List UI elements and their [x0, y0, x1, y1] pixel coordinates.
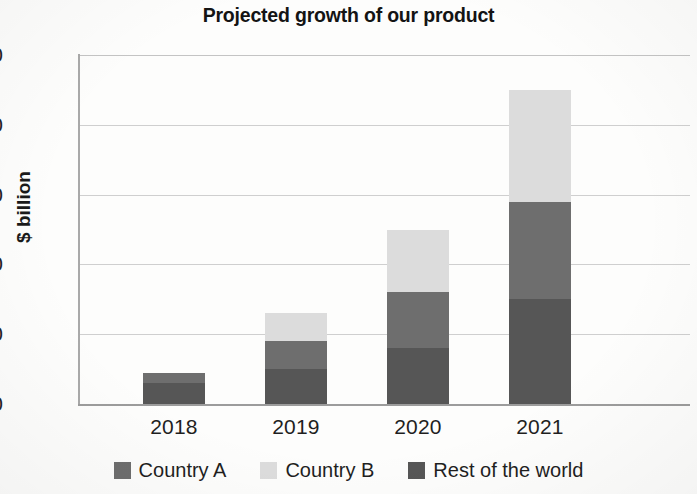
chart-title: Projected growth of our product	[0, 4, 697, 27]
x-tick-label-2020: 2020	[358, 415, 478, 439]
bar-segment-country-b-2020[interactable]	[387, 230, 449, 293]
x-tick-label-2021: 2021	[480, 415, 600, 439]
plot-area	[78, 55, 690, 404]
bar-segment-rest-of-the-world-2019[interactable]	[265, 369, 327, 404]
legend-item-country-a[interactable]: Country A	[114, 460, 227, 480]
bar-segment-country-a-2021[interactable]	[509, 202, 571, 300]
bar-group-2018[interactable]	[143, 373, 205, 404]
bar-segment-country-a-2019[interactable]	[265, 341, 327, 369]
bar-segment-country-b-2021[interactable]	[509, 90, 571, 202]
bar-segment-country-a-2018[interactable]	[143, 373, 205, 383]
bar-segment-rest-of-the-world-2018[interactable]	[143, 383, 205, 404]
y-tick-label-30: 30	[0, 184, 3, 205]
bar-segment-country-b-2019[interactable]	[265, 313, 327, 341]
gridline-10	[78, 334, 690, 335]
bar-segment-country-a-2020[interactable]	[387, 292, 449, 348]
legend-swatch-rest-of-world	[408, 462, 425, 479]
x-tick-label-2019: 2019	[236, 415, 356, 439]
y-axis-title: $ billion	[13, 147, 35, 267]
legend-swatch-country-b	[260, 462, 277, 479]
bar-group-2019[interactable]	[265, 313, 327, 404]
legend-label: Rest of the world	[433, 460, 583, 480]
gridline-40	[78, 125, 690, 126]
legend-item-country-b[interactable]: Country B	[260, 460, 374, 480]
gridline-50	[78, 55, 690, 56]
gridline-30	[78, 195, 690, 196]
y-tick-label-40: 40	[0, 114, 3, 135]
legend-label: Country A	[139, 460, 227, 480]
legend-swatch-country-a	[114, 462, 131, 479]
x-axis-line	[78, 404, 690, 406]
legend-label: Country B	[285, 460, 374, 480]
bar-segment-rest-of-the-world-2020[interactable]	[387, 348, 449, 404]
bar-segment-rest-of-the-world-2021[interactable]	[509, 299, 571, 404]
chart-legend: Country ACountry BRest of the world	[0, 460, 697, 480]
y-tick-label-50: 50	[0, 44, 3, 65]
gridline-20	[78, 264, 690, 265]
y-tick-label-0: 0	[0, 393, 3, 414]
legend-item-rest-of-the-world[interactable]: Rest of the world	[408, 460, 583, 480]
y-tick-label-20: 20	[0, 253, 3, 274]
bar-group-2020[interactable]	[387, 230, 449, 404]
x-tick-label-2018: 2018	[114, 415, 234, 439]
bar-group-2021[interactable]	[509, 90, 571, 404]
y-tick-label-10: 10	[0, 323, 3, 344]
y-axis-line	[78, 54, 80, 405]
chart-figure: Projected growth of our product $ billio…	[0, 0, 697, 494]
